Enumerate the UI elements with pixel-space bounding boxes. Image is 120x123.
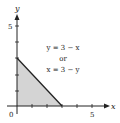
x-axis-label: x xyxy=(111,102,116,111)
equation-or: or xyxy=(59,55,67,63)
y-tick-label-5: 5 xyxy=(8,23,12,31)
y-axis-label: y xyxy=(14,4,20,13)
x-axis-arrow-icon xyxy=(104,104,110,109)
y-axis-arrow-icon xyxy=(15,14,20,20)
graph: y x 0 5 5 y = 3 − x or x = 3 − y xyxy=(0,0,120,123)
x-tick-label-5: 5 xyxy=(90,111,94,119)
equation-line-2: x = 3 − y xyxy=(47,66,80,74)
equation-line-1: y = 3 − x xyxy=(46,44,80,52)
origin-label: 0 xyxy=(9,111,13,119)
